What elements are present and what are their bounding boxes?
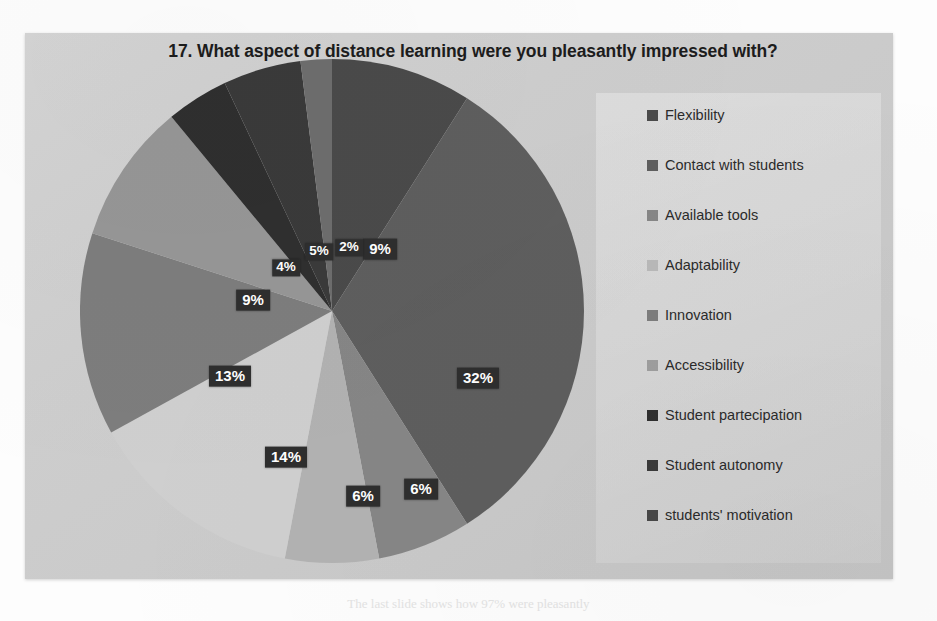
legend-item-label: Adaptability bbox=[665, 257, 740, 273]
legend-item-label: Accessibility bbox=[665, 357, 744, 373]
legend-item-label: Innovation bbox=[665, 307, 732, 323]
legend-item-label: Student autonomy bbox=[665, 457, 783, 473]
page-bleed-text: The last slide shows how 97% were pleasa… bbox=[0, 596, 937, 612]
pie-data-label: 6% bbox=[404, 479, 438, 500]
pie-data-label: 4% bbox=[272, 259, 300, 276]
legend-swatch-icon bbox=[647, 210, 658, 221]
legend-item[interactable]: Available tools bbox=[647, 207, 758, 223]
legend-item[interactable]: Adaptability bbox=[647, 257, 740, 273]
pie-data-label: 13% bbox=[209, 366, 251, 387]
pie-svg bbox=[80, 53, 600, 573]
pie-data-label: 14% bbox=[265, 447, 307, 468]
pie-data-label: 6% bbox=[346, 486, 380, 507]
legend-swatch-icon bbox=[647, 260, 658, 271]
pie-chart bbox=[80, 53, 600, 573]
pie-slices bbox=[80, 59, 584, 563]
legend-item[interactable]: Innovation bbox=[647, 307, 732, 323]
chart-panel: 17. What aspect of distance learning wer… bbox=[25, 33, 893, 579]
pie-data-label: 5% bbox=[305, 243, 333, 260]
legend-swatch-icon bbox=[647, 460, 658, 471]
legend-item[interactable]: Accessibility bbox=[647, 357, 744, 373]
legend-item-label: Contact with students bbox=[665, 157, 804, 173]
legend-item-label: Student partecipation bbox=[665, 407, 802, 423]
pie-data-label: 9% bbox=[363, 239, 397, 260]
legend-item[interactable]: Student autonomy bbox=[647, 457, 783, 473]
legend-item-label: Available tools bbox=[665, 207, 758, 223]
legend-swatch-icon bbox=[647, 160, 658, 171]
chart-legend: FlexibilityContact with studentsAvailabl… bbox=[596, 93, 881, 563]
legend-item[interactable]: students' motivation bbox=[647, 507, 793, 523]
legend-swatch-icon bbox=[647, 360, 658, 371]
legend-item[interactable]: Student partecipation bbox=[647, 407, 802, 423]
legend-swatch-icon bbox=[647, 310, 658, 321]
legend-swatch-icon bbox=[647, 510, 658, 521]
legend-item[interactable]: Contact with students bbox=[647, 157, 804, 173]
legend-swatch-icon bbox=[647, 110, 658, 121]
pie-data-label: 32% bbox=[457, 368, 499, 389]
pie-data-label: 9% bbox=[236, 290, 270, 311]
legend-item[interactable]: Flexibility bbox=[647, 107, 725, 123]
legend-swatch-icon bbox=[647, 410, 658, 421]
pie-data-label: 2% bbox=[335, 239, 363, 256]
legend-item-label: students' motivation bbox=[665, 507, 793, 523]
legend-item-label: Flexibility bbox=[665, 107, 725, 123]
